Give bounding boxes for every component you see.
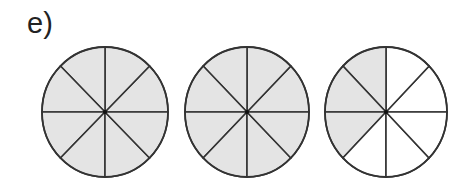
center-dot (384, 110, 388, 114)
fraction-circle-2 (185, 47, 309, 177)
center-dot (245, 110, 249, 114)
center-dot (103, 110, 107, 114)
fraction-circle-1 (42, 47, 168, 177)
fraction-circles-diagram (0, 0, 466, 185)
fraction-circle-3 (325, 47, 447, 177)
